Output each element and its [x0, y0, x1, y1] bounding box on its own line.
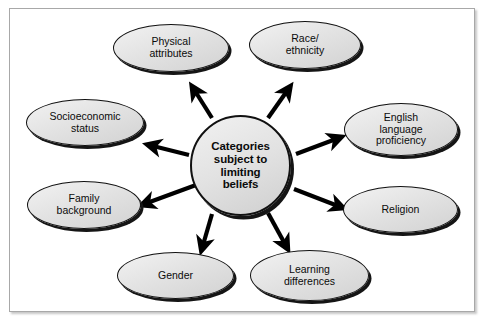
node-family-background-line-2: background [57, 205, 112, 217]
node-english-language-proficiency-line-1: English [376, 112, 426, 124]
arrow-to-religion [294, 189, 338, 206]
arrow-to-physical-attributes [195, 91, 212, 118]
node-learning-differences-line-2: differences [284, 276, 335, 288]
arrow-to-socioeconomic-status [153, 146, 189, 155]
node-learning-differences[interactable]: Learning differences [250, 250, 369, 301]
arrow-to-gender [203, 214, 212, 245]
center-node-line-4: beliefs [211, 178, 269, 191]
node-gender[interactable]: Gender [117, 252, 234, 299]
node-socioeconomic-status-line-2: status [49, 123, 120, 135]
node-religion-line-1: Religion [382, 204, 420, 216]
arrow-to-family-background [147, 185, 196, 203]
node-english-language-proficiency[interactable]: English language proficiency [344, 103, 458, 156]
arrow-to-english-language-proficiency [296, 139, 336, 154]
arrow-to-race-ethnicity [268, 91, 287, 118]
diagram-page: Categories subject to limiting beliefs P… [0, 0, 488, 327]
node-physical-attributes[interactable]: Physical attributes [113, 24, 229, 72]
node-family-background[interactable]: Family background [27, 181, 141, 229]
node-socioeconomic-status-line-1: Socioeconomic [49, 111, 120, 123]
node-race-ethnicity[interactable]: Race/ ethnicity [249, 21, 361, 69]
node-physical-attributes-line-2: attributes [149, 48, 192, 60]
node-gender-line-1: Gender [158, 270, 193, 282]
node-race-ethnicity-line-2: ethnicity [286, 45, 325, 57]
node-english-language-proficiency-line-3: proficiency [376, 135, 426, 147]
node-learning-differences-line-1: Learning [284, 264, 335, 276]
arrow-to-learning-differences [268, 213, 285, 244]
center-node-line-1: Categories [211, 140, 269, 153]
center-node-line-2: subject to [211, 153, 269, 166]
center-node-line-3: limiting [211, 166, 269, 179]
center-node[interactable]: Categories subject to limiting beliefs [190, 115, 291, 216]
node-socioeconomic-status[interactable]: Socioeconomic status [26, 99, 144, 146]
node-religion[interactable]: Religion [343, 186, 458, 233]
